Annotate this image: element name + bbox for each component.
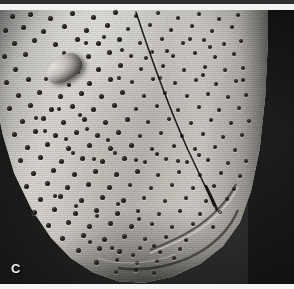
areola-pore xyxy=(209,118,213,122)
areola-pore xyxy=(117,37,122,42)
areola-pore xyxy=(103,120,108,125)
areola-pore xyxy=(136,209,140,213)
areola-pore xyxy=(198,173,202,177)
areola-pore xyxy=(181,41,185,45)
areola-pore xyxy=(53,133,58,138)
areola-pore xyxy=(222,42,226,46)
areola-pore xyxy=(41,29,46,34)
areola-pore xyxy=(240,133,244,137)
areola-pore xyxy=(134,158,138,162)
areola-pore xyxy=(129,143,134,148)
areola-pore xyxy=(126,27,130,31)
areola-pore xyxy=(76,248,81,253)
areola-pore xyxy=(230,25,234,29)
areola-pore xyxy=(66,220,71,225)
areola-pore xyxy=(82,117,87,122)
areola-pore xyxy=(60,236,65,241)
areola-pore xyxy=(244,159,248,163)
areola-pore xyxy=(110,246,114,250)
areola-pore xyxy=(219,171,223,175)
areola-pore xyxy=(191,222,195,226)
areola-pore xyxy=(91,15,96,20)
areola-pore xyxy=(118,63,123,68)
areola-pore xyxy=(161,64,165,68)
areola-pore xyxy=(185,94,189,98)
areola-pore xyxy=(176,16,180,20)
areola-pore xyxy=(43,129,47,133)
areola-pore xyxy=(203,65,207,69)
areola-pore xyxy=(190,24,194,28)
areola-pore xyxy=(3,28,8,33)
areola-pore xyxy=(108,146,113,151)
areola-pore xyxy=(99,94,104,99)
areola-pore xyxy=(142,196,146,200)
areola-pore xyxy=(170,225,174,229)
areola-pore xyxy=(74,204,78,208)
areola-pore xyxy=(62,24,67,29)
areola-pore xyxy=(204,199,208,203)
areola-pore xyxy=(58,194,63,199)
areola-pore xyxy=(176,108,180,112)
areola-pore xyxy=(51,168,56,173)
areola-pore xyxy=(151,77,155,81)
areola-pore xyxy=(138,41,142,45)
areola-pore xyxy=(135,169,140,174)
areola-pore xyxy=(134,107,138,111)
areola-pore xyxy=(152,244,156,248)
areola-pore xyxy=(96,41,101,46)
areola-pore xyxy=(122,234,127,239)
areola-pore xyxy=(113,10,118,15)
areola-pore xyxy=(38,197,43,202)
areola-pore xyxy=(108,77,113,82)
areola-pore xyxy=(121,198,126,203)
areola-pore xyxy=(79,91,84,96)
areola-pore xyxy=(170,183,174,187)
areola-pore xyxy=(193,51,197,55)
areola-pore xyxy=(239,39,243,43)
areola-pore xyxy=(79,198,84,203)
areola-pore xyxy=(188,37,192,41)
areola-pore xyxy=(16,93,21,98)
areola-pore xyxy=(143,160,147,164)
areola-pore xyxy=(156,173,160,177)
areola-pore xyxy=(217,17,221,21)
areola-pore xyxy=(4,80,9,85)
areola-pore xyxy=(178,209,182,213)
areola-pore xyxy=(24,184,29,189)
areola-pore xyxy=(182,68,186,72)
areola-pore xyxy=(233,148,237,152)
areola-pore xyxy=(198,212,202,216)
areola-pore xyxy=(237,106,241,110)
areola-pore xyxy=(232,187,236,191)
areola-pore xyxy=(61,120,66,125)
areola-pore xyxy=(28,12,33,17)
areola-pore xyxy=(102,35,106,39)
areola-pore xyxy=(212,184,216,188)
areola-pore xyxy=(87,143,92,148)
areola-pore xyxy=(225,197,229,201)
areola-pore xyxy=(214,82,218,86)
areola-pore xyxy=(48,16,53,21)
areola-pore xyxy=(59,159,64,164)
areola-pore xyxy=(206,92,210,96)
areola-pore xyxy=(87,81,92,86)
areola-pore xyxy=(38,155,43,160)
areola-pore xyxy=(157,212,161,216)
areola-pore xyxy=(57,107,61,111)
areola-pore xyxy=(13,67,18,72)
areola-pore xyxy=(167,117,171,121)
areola-pore xyxy=(144,56,148,60)
areola-pore xyxy=(130,80,134,84)
areola-pore xyxy=(244,93,248,97)
areola-pore xyxy=(116,130,121,135)
areola-pore xyxy=(173,81,177,85)
areola-pore xyxy=(226,161,230,165)
areola-pore xyxy=(102,237,107,242)
areola-pore xyxy=(201,73,205,77)
areola-pore xyxy=(78,113,82,117)
areola-pore xyxy=(96,67,101,72)
areola-pore xyxy=(178,247,182,251)
areola-pore xyxy=(232,52,236,56)
areola-pore xyxy=(184,196,188,200)
areola-pore xyxy=(189,121,193,125)
